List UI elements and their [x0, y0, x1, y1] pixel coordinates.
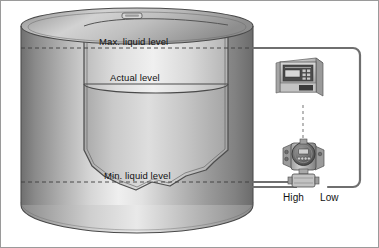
diagram-svg	[0, 0, 379, 248]
controller-mounting-bracket	[276, 62, 280, 93]
actual-level-label: Actual level	[110, 72, 160, 83]
transmitter-neck	[299, 169, 308, 174]
low-port-label: Low	[320, 192, 339, 203]
manifold-high-port	[288, 177, 292, 184]
transmitter-left-bolt	[285, 157, 289, 161]
transmitter-left-vent	[285, 150, 289, 154]
tank-bottom	[21, 205, 253, 233]
transmitter-right-vent	[318, 152, 322, 156]
transmitter-valve-manifold	[292, 174, 315, 187]
high-port-label: High	[283, 192, 304, 203]
controller-display-unit[interactable]	[276, 58, 323, 96]
controller-side-face	[316, 58, 323, 96]
manifold-low-port	[315, 177, 319, 184]
diagram-canvas: Max. liquid level Actual level Min. liqu…	[0, 0, 379, 248]
controller-lcd-screen	[285, 70, 300, 77]
differential-pressure-transmitter[interactable]	[283, 139, 324, 187]
max-level-label: Max. liquid level	[99, 36, 168, 47]
controller-status-window	[299, 85, 313, 91]
tank-top-hatch	[122, 13, 142, 19]
transmitter-conduit	[300, 139, 307, 144]
transmitter-lcd-display	[299, 149, 309, 154]
min-level-label: Min. liquid level	[104, 170, 171, 181]
